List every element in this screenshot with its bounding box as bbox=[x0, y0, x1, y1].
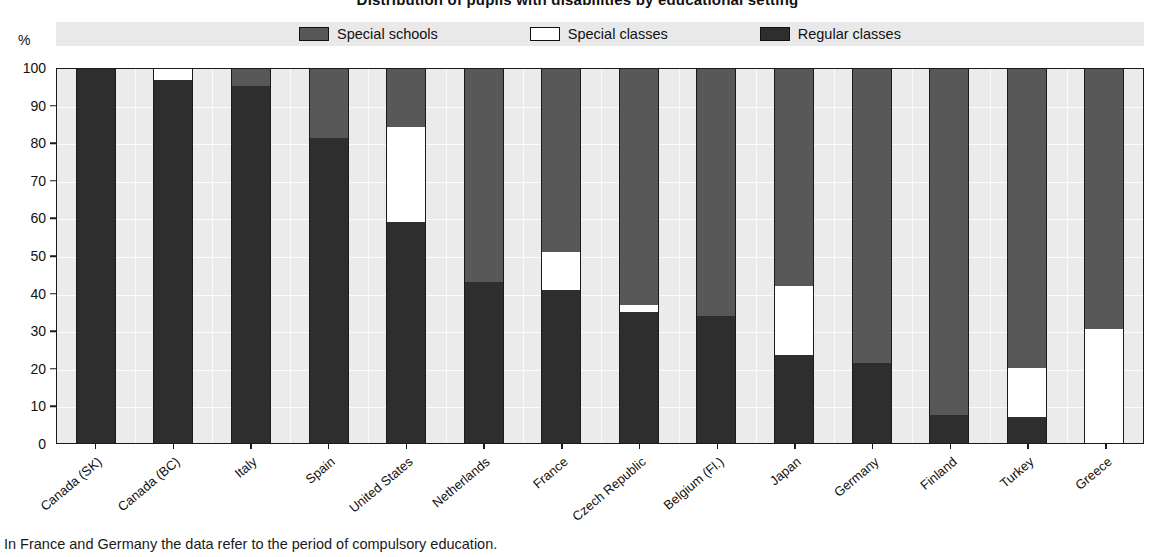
bar-segment-regular-classes[interactable] bbox=[1007, 417, 1047, 443]
bar-wrapper bbox=[1084, 69, 1124, 443]
bar-slot bbox=[135, 69, 213, 443]
stacked-bar[interactable] bbox=[309, 69, 349, 443]
stacked-bar[interactable] bbox=[1007, 69, 1047, 443]
bar-segment-regular-classes[interactable] bbox=[929, 415, 969, 443]
bar-segment-regular-classes[interactable] bbox=[696, 316, 736, 443]
bar-segment-special-schools[interactable] bbox=[1007, 69, 1047, 368]
stacked-bar[interactable] bbox=[774, 69, 814, 443]
x-axis-slot: Belgium (Fl.) bbox=[678, 444, 756, 529]
bar-slot bbox=[1066, 69, 1144, 443]
bar-segment-special-schools[interactable] bbox=[309, 69, 349, 138]
bar-slot bbox=[755, 69, 833, 443]
bar-segment-special-schools[interactable] bbox=[464, 69, 504, 282]
bar-wrapper bbox=[464, 69, 504, 443]
legend-item-special-classes: Special classes bbox=[530, 26, 668, 42]
stacked-bar[interactable] bbox=[153, 69, 193, 443]
x-axis-tick-label: Greece bbox=[1072, 454, 1114, 493]
y-axis-tick-label: 60 bbox=[30, 210, 46, 226]
bar-segment-special-schools[interactable] bbox=[619, 69, 659, 305]
legend-swatch-icon-special-classes bbox=[530, 27, 560, 41]
x-axis-tick-mark bbox=[1105, 444, 1107, 449]
bar-segment-regular-classes[interactable] bbox=[852, 363, 892, 443]
x-axis-tick-mark bbox=[250, 444, 252, 449]
chart-legend: Special schools Special classes Regular … bbox=[56, 22, 1144, 46]
stacked-bar[interactable] bbox=[619, 69, 659, 443]
bar-segment-special-schools[interactable] bbox=[929, 69, 969, 415]
x-axis-slot: Spain bbox=[289, 444, 367, 529]
bar-segment-regular-classes[interactable] bbox=[464, 282, 504, 443]
x-axis-tick-mark bbox=[483, 444, 485, 449]
x-axis-tick-label: Spain bbox=[303, 454, 338, 487]
x-axis-slot: Canada (BC) bbox=[134, 444, 212, 529]
bar-slot bbox=[290, 69, 368, 443]
bar-segment-special-classes[interactable] bbox=[619, 305, 659, 312]
x-axis-tick-mark bbox=[794, 444, 796, 449]
bar-slot bbox=[522, 69, 600, 443]
stacked-bar[interactable] bbox=[696, 69, 736, 443]
bar-segment-regular-classes[interactable] bbox=[541, 290, 581, 443]
x-axis-tick-mark bbox=[406, 444, 408, 449]
bar-segment-special-classes[interactable] bbox=[386, 127, 426, 222]
x-axis-tick-label: Finland bbox=[917, 454, 959, 493]
x-axis-slot: Turkey bbox=[989, 444, 1067, 529]
bar-slot bbox=[910, 69, 988, 443]
bar-segment-special-schools[interactable] bbox=[774, 69, 814, 286]
bar-segment-regular-classes[interactable] bbox=[76, 69, 116, 443]
bar-segment-special-schools[interactable] bbox=[852, 69, 892, 363]
bar-slot bbox=[445, 69, 523, 443]
chart-title: Distribution of pupils with disabilities… bbox=[0, 0, 1155, 8]
stacked-bar[interactable] bbox=[852, 69, 892, 443]
legend-item-regular-classes: Regular classes bbox=[760, 26, 901, 42]
stacked-bar[interactable] bbox=[76, 69, 116, 443]
bar-wrapper bbox=[541, 69, 581, 443]
bar-segment-special-schools[interactable] bbox=[386, 69, 426, 127]
bar-segment-special-classes[interactable] bbox=[153, 69, 193, 80]
bar-slot bbox=[57, 69, 135, 443]
x-axis: Canada (SK)Canada (BC)ItalySpainUnited S… bbox=[56, 444, 1144, 529]
bar-segment-regular-classes[interactable] bbox=[619, 312, 659, 443]
x-axis-slot: Canada (SK) bbox=[56, 444, 134, 529]
x-axis-slot: Netherlands bbox=[445, 444, 523, 529]
legend-label-special-classes: Special classes bbox=[568, 26, 668, 42]
x-axis-tick-label: Turkey bbox=[997, 454, 1037, 491]
y-axis-tick-label: 90 bbox=[30, 98, 46, 114]
x-axis-tick-label: Italy bbox=[232, 454, 260, 481]
stacked-bar[interactable] bbox=[231, 69, 271, 443]
bar-wrapper bbox=[696, 69, 736, 443]
x-axis-slot: United States bbox=[367, 444, 445, 529]
bar-segment-special-schools[interactable] bbox=[231, 69, 271, 86]
bar-segment-regular-classes[interactable] bbox=[153, 80, 193, 443]
y-axis-tick-label: 20 bbox=[30, 361, 46, 377]
legend-item-special-schools: Special schools bbox=[299, 26, 438, 42]
x-axis-tick-mark bbox=[1027, 444, 1029, 449]
stacked-bar[interactable] bbox=[929, 69, 969, 443]
bar-segment-regular-classes[interactable] bbox=[774, 355, 814, 443]
stacked-bar[interactable] bbox=[464, 69, 504, 443]
x-axis-tick-mark bbox=[639, 444, 641, 449]
plot-area bbox=[56, 68, 1144, 444]
y-axis-tick-label: 10 bbox=[30, 398, 46, 414]
bar-segment-regular-classes[interactable] bbox=[231, 86, 271, 443]
bar-segment-regular-classes[interactable] bbox=[309, 138, 349, 443]
stacked-bar[interactable] bbox=[1084, 69, 1124, 443]
stacked-bar[interactable] bbox=[386, 69, 426, 443]
y-axis-tick-label: 50 bbox=[30, 248, 46, 264]
bar-segment-special-classes[interactable] bbox=[774, 286, 814, 355]
stacked-bar[interactable] bbox=[541, 69, 581, 443]
x-axis-slot: Italy bbox=[211, 444, 289, 529]
bar-slot bbox=[988, 69, 1066, 443]
bar-segment-special-classes[interactable] bbox=[1084, 329, 1124, 443]
bar-segment-special-schools[interactable] bbox=[541, 69, 581, 252]
bar-wrapper bbox=[76, 69, 116, 443]
bar-segment-special-schools[interactable] bbox=[1084, 69, 1124, 329]
legend-label-regular-classes: Regular classes bbox=[798, 26, 901, 42]
x-axis-slot: Japan bbox=[755, 444, 833, 529]
bar-segment-regular-classes[interactable] bbox=[386, 222, 426, 443]
bar-slot bbox=[367, 69, 445, 443]
bar-series-container bbox=[57, 69, 1143, 443]
x-axis-slot: Czech Republic bbox=[600, 444, 678, 529]
bar-segment-special-classes[interactable] bbox=[541, 252, 581, 289]
bar-segment-special-classes[interactable] bbox=[1007, 368, 1047, 417]
bar-segment-special-schools[interactable] bbox=[696, 69, 736, 316]
x-axis-tick-mark bbox=[95, 444, 97, 449]
